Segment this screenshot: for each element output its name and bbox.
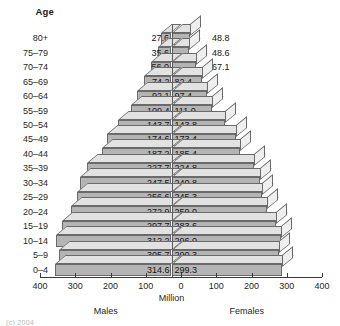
- age-group-label: 25–29: [0, 192, 48, 203]
- x-axis-tick-label: 200: [232, 281, 272, 291]
- x-axis-tick: [216, 273, 217, 277]
- age-group-label: 80+: [0, 33, 48, 44]
- male-value-label: 314.6: [136, 265, 170, 276]
- female-value-label: 48.6: [212, 48, 246, 59]
- female-bar-top-face: [172, 139, 251, 148]
- male-bar-top-face: [55, 255, 182, 264]
- female-bar-side-face: [267, 188, 278, 209]
- x-axis-tick-label: 0: [161, 281, 201, 291]
- footnote-text: (c) 2004: [6, 319, 34, 326]
- age-group-label: 5–9: [0, 250, 48, 261]
- x-axis-tick-label: 300: [267, 281, 307, 291]
- age-group-label: 55–59: [0, 106, 48, 117]
- females-legend-label: Females: [212, 306, 282, 316]
- x-axis-tick-label: 400: [20, 281, 60, 291]
- male-bar-top-face: [77, 183, 182, 192]
- center-reference-line: [172, 24, 173, 277]
- age-group-label: 30–34: [0, 178, 48, 189]
- x-axis-unit-label: Million: [142, 293, 202, 303]
- female-bar-side-face: [225, 102, 236, 123]
- female-bar-top-face: [172, 226, 292, 235]
- x-axis-tick: [252, 273, 253, 277]
- male-bar-top-face: [87, 154, 182, 163]
- x-axis-tick-label: 300: [55, 281, 95, 291]
- age-group-label: 60–64: [0, 91, 48, 102]
- age-group-label: 70–74: [0, 62, 48, 73]
- age-axis-title: Age: [8, 6, 54, 17]
- female-bar-side-face: [212, 87, 223, 108]
- male-bar-top-face: [71, 197, 182, 206]
- males-legend-label: Males: [71, 306, 141, 316]
- age-group-label: 35–39: [0, 163, 48, 174]
- age-group-label: 15–19: [0, 221, 48, 232]
- male-bar-top-face: [59, 241, 183, 250]
- x-axis-tick: [322, 273, 323, 277]
- age-group-label: 10–14: [0, 236, 48, 247]
- x-axis-tick: [146, 273, 147, 277]
- male-bar-top-face: [80, 168, 182, 177]
- x-axis-tick: [75, 273, 76, 277]
- age-group-label: 40–44: [0, 149, 48, 160]
- male-bar-top-face: [62, 212, 183, 221]
- female-bar-top-face: [172, 212, 287, 221]
- female-bar-top-face: [172, 154, 266, 163]
- female-value-label: 299.3: [175, 265, 209, 276]
- female-bar-top-face: [172, 197, 278, 206]
- female-bar-top-face: [172, 168, 272, 177]
- female-value-label: 67.1: [212, 62, 246, 73]
- age-group-label: 50–54: [0, 120, 48, 131]
- x-axis-tick: [40, 273, 41, 277]
- age-group-label: 45–49: [0, 134, 48, 145]
- x-axis-tick: [111, 273, 112, 277]
- female-bar-side-face: [196, 44, 207, 65]
- female-bar-top-face: [172, 183, 273, 192]
- age-group-label: 20–24: [0, 207, 48, 218]
- age-group-label: 65–69: [0, 77, 48, 88]
- female-bar-side-face: [276, 203, 287, 224]
- male-bar-top-face: [102, 139, 182, 148]
- x-axis-tick-label: 100: [196, 281, 236, 291]
- female-value-label: 48.8: [212, 33, 246, 44]
- x-axis-tick-label: 200: [91, 281, 131, 291]
- female-bar-side-face: [240, 130, 251, 151]
- x-axis-line: [40, 277, 322, 278]
- age-group-label: 75–79: [0, 48, 48, 59]
- x-axis-tick: [287, 273, 288, 277]
- x-axis-tick-label: 100: [126, 281, 166, 291]
- female-bar-top-face: [172, 241, 290, 250]
- female-bar-side-face: [254, 145, 265, 166]
- female-bar-top-face: [172, 255, 293, 264]
- x-axis-tick: [181, 273, 182, 277]
- male-bar-top-face: [56, 226, 182, 235]
- population-pyramid-chart: Age 80+27.648.875–7935.648.670–7456.067.…: [0, 0, 340, 326]
- x-axis-tick-label: 400: [302, 281, 340, 291]
